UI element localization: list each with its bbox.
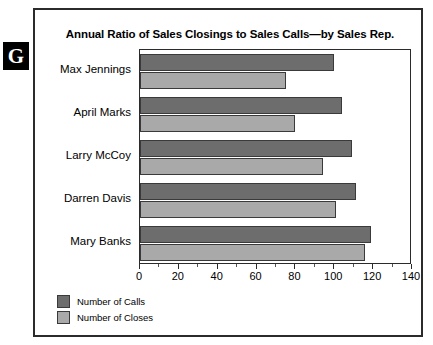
x-tick xyxy=(411,264,412,269)
legend-swatch xyxy=(57,295,70,308)
x-tick xyxy=(178,264,179,269)
bar-closes xyxy=(140,244,365,261)
x-tick-label: 140 xyxy=(402,270,420,282)
x-tick-label: 100 xyxy=(324,270,342,282)
x-tick-minor xyxy=(197,264,198,267)
chart-legend: Number of CallsNumber of Closes xyxy=(57,295,153,327)
x-axis: 020406080100120140 xyxy=(139,264,411,294)
bar-closes xyxy=(140,158,323,175)
bar-closes xyxy=(140,115,295,132)
x-tick xyxy=(333,264,334,269)
category-label: Darren Davis xyxy=(35,192,139,204)
x-tick-label: 20 xyxy=(172,270,184,282)
chart-title: Annual Ratio of Sales Closings to Sales … xyxy=(35,28,425,40)
x-tick xyxy=(294,264,295,269)
bar-group xyxy=(140,136,410,179)
x-tick-minor xyxy=(158,264,159,267)
bar-group xyxy=(140,222,410,265)
x-tick-label: 0 xyxy=(136,270,142,282)
legend-item: Number of Calls xyxy=(57,295,153,308)
bar-closes xyxy=(140,72,286,89)
legend-swatch xyxy=(57,311,70,324)
category-label: Larry McCoy xyxy=(35,149,139,161)
plot-area xyxy=(139,49,411,264)
category-axis-labels: Max JenningsApril MarksLarry McCoyDarren… xyxy=(35,49,139,264)
bar-closes xyxy=(140,201,336,218)
bar-calls xyxy=(140,54,334,71)
x-tick xyxy=(256,264,257,269)
chart-page: G Annual Ratio of Sales Closings to Sale… xyxy=(0,0,433,345)
bar-group xyxy=(140,50,410,93)
x-tick xyxy=(372,264,373,269)
x-tick-label: 120 xyxy=(363,270,381,282)
bar-calls xyxy=(140,226,371,243)
bar-calls xyxy=(140,97,342,114)
x-tick-minor xyxy=(275,264,276,267)
x-tick xyxy=(139,264,140,269)
x-tick-label: 60 xyxy=(249,270,261,282)
bar-group xyxy=(140,179,410,222)
legend-item: Number of Closes xyxy=(57,311,153,324)
bar-group xyxy=(140,93,410,136)
bar-calls xyxy=(140,140,352,157)
x-tick-minor xyxy=(353,264,354,267)
x-tick-minor xyxy=(314,264,315,267)
x-tick xyxy=(217,264,218,269)
x-tick-label: 80 xyxy=(288,270,300,282)
legend-label: Number of Calls xyxy=(77,296,145,307)
category-label: Max Jennings xyxy=(35,63,139,75)
figure-frame: Annual Ratio of Sales Closings to Sales … xyxy=(33,8,423,337)
figure-letter-marker: G xyxy=(3,42,29,70)
x-tick-minor xyxy=(392,264,393,267)
x-tick-label: 40 xyxy=(211,270,223,282)
legend-label: Number of Closes xyxy=(77,312,153,323)
category-label: Mary Banks xyxy=(35,235,139,247)
x-tick-minor xyxy=(236,264,237,267)
bar-calls xyxy=(140,183,356,200)
category-label: April Marks xyxy=(35,106,139,118)
